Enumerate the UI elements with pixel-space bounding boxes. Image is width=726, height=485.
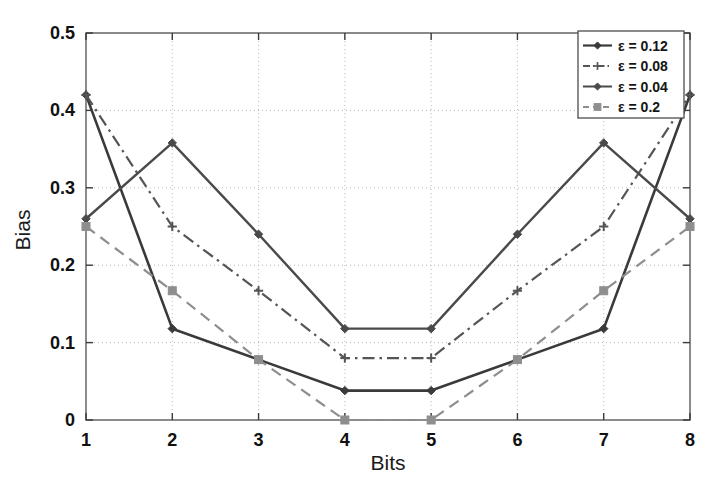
- legend-marker: [594, 104, 601, 111]
- legend-label: ε = 0.04: [618, 79, 668, 95]
- legend-label: ε = 0.08: [618, 58, 668, 74]
- y-tick-label: 0: [65, 410, 75, 430]
- x-tick-label: 1: [81, 430, 91, 450]
- x-tick-label: 4: [340, 430, 350, 450]
- y-tick-label: 0.3: [50, 178, 75, 198]
- data-point-marker: [686, 223, 694, 231]
- bias-vs-bits-line-chart: 00.10.20.30.40.512345678 Bits Bias ε = 0…: [0, 0, 726, 485]
- y-tick-label: 0.4: [50, 100, 75, 120]
- y-axis-label: Bias: [11, 210, 34, 251]
- data-point-marker: [168, 287, 176, 295]
- legend-label: ε = 0.12: [618, 38, 668, 54]
- legend-label: ε = 0.2: [618, 99, 660, 115]
- data-point-marker: [427, 416, 435, 424]
- x-tick-label: 8: [685, 430, 695, 450]
- data-point-marker: [341, 416, 349, 424]
- y-tick-label: 0.2: [50, 255, 75, 275]
- x-tick-label: 3: [254, 430, 264, 450]
- y-tick-label: 0.1: [50, 333, 75, 353]
- data-point-marker: [82, 223, 90, 231]
- data-point-marker: [600, 287, 608, 295]
- x-tick-label: 2: [167, 430, 177, 450]
- y-tick-label: 0.5: [50, 23, 75, 43]
- data-point-marker: [255, 356, 263, 364]
- x-tick-label: 5: [426, 430, 436, 450]
- x-axis-label: Bits: [370, 451, 405, 474]
- data-point-marker: [513, 356, 521, 364]
- chart-figure: 00.10.20.30.40.512345678 Bits Bias ε = 0…: [0, 0, 726, 485]
- x-tick-label: 7: [599, 430, 609, 450]
- chart-legend: ε = 0.12ε = 0.08ε = 0.04ε = 0.2: [578, 31, 684, 118]
- x-tick-label: 6: [512, 430, 522, 450]
